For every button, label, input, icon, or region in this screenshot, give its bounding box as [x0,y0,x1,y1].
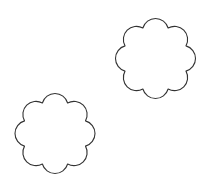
diagram-canvas [0,0,205,187]
scalloped-shape-bottom-left [15,93,95,173]
scalloped-shape-top-right [115,18,195,98]
